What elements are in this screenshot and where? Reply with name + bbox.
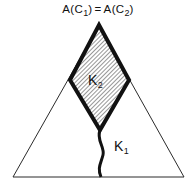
equation-right-function: A(C xyxy=(104,3,125,15)
equation-left-close: ) xyxy=(88,3,92,15)
figure-container: A(C1)=A(C2) K2 K1 xyxy=(0,0,196,187)
label-k2-subscript: 2 xyxy=(98,80,103,90)
equation-right-close: ) xyxy=(130,3,134,15)
equation-label: A(C1)=A(C2) xyxy=(0,2,196,20)
label-k2-base: K xyxy=(88,72,98,88)
label-k2: K2 xyxy=(88,72,103,93)
label-k1: K1 xyxy=(114,138,129,159)
label-k1-base: K xyxy=(114,138,124,154)
geometry-figure xyxy=(0,0,196,187)
label-k1-subscript: 1 xyxy=(124,146,129,156)
equation-left-function: A(C xyxy=(62,3,83,15)
equation-relation: = xyxy=(94,3,101,15)
